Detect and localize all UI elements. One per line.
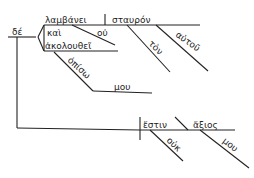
word-axios: ἄξιος	[193, 120, 218, 130]
compound-bracket-bottom	[38, 37, 44, 51]
predicate-nominative-divider	[175, 117, 188, 130]
word-estin: ἔστιν	[143, 120, 167, 130]
word-mou-2: μου	[221, 136, 240, 154]
word-autou: αὐτοῦ	[174, 29, 202, 53]
word-de: δέ	[12, 27, 23, 37]
word-kai: καὶ	[47, 28, 61, 38]
word-ton: τὸν	[147, 38, 165, 56]
word-ouk: οὐκ	[165, 135, 184, 154]
word-akolouthei: ἀκολουθεῖ	[45, 41, 91, 51]
word-ou-1: οὐ	[97, 28, 108, 38]
sentence-diagram: δέ λαμβάνει καὶ σταυρόν οὐ τὸν αὐτοῦ ἀκο…	[0, 0, 254, 178]
word-mou-1: μου	[114, 82, 130, 92]
compound-bracket-top	[38, 25, 44, 37]
word-lambanei: λαμβάνει	[45, 15, 87, 25]
modifier-line-mou	[200, 130, 249, 168]
word-stauron: σταυρόν	[112, 15, 151, 25]
conjunction-connector-horizontal	[17, 128, 140, 130]
